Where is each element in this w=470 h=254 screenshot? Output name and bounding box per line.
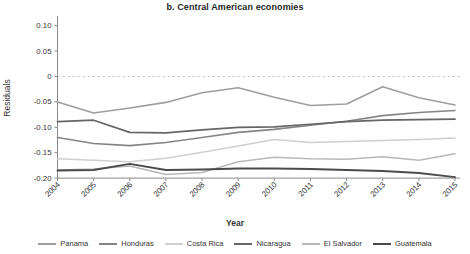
legend-swatch-guatemala	[373, 243, 391, 245]
y-tick-label: -0.10	[34, 123, 52, 132]
legend-label-guatemala: Guatemala	[395, 239, 432, 248]
legend-item-nicaragua: Nicaragua	[234, 239, 290, 248]
legend: PanamaHondurasCosta RicaNicaraguaEl Salv…	[0, 239, 470, 248]
legend-item-honduras: Honduras	[99, 239, 154, 248]
x-tick-label: 2009	[224, 180, 243, 199]
legend-label-panama: Panama	[60, 239, 88, 248]
y-tick-label: -0.05	[34, 97, 52, 106]
legend-label-el-salvador: El Salvador	[324, 239, 362, 248]
x-tick-label: 2005	[79, 180, 98, 199]
legend-item-guatemala: Guatemala	[373, 239, 432, 248]
legend-swatch-costa-rica	[165, 243, 183, 245]
legend-swatch-honduras	[99, 243, 117, 245]
x-tick-label: 2014	[405, 180, 424, 199]
legend-item-panama: Panama	[38, 239, 88, 248]
legend-label-honduras: Honduras	[121, 239, 154, 248]
x-tick-label: 2011	[297, 180, 315, 198]
x-axis-label: Year	[0, 218, 470, 228]
legend-item-costa-rica: Costa Rica	[165, 239, 224, 248]
legend-swatch-panama	[38, 243, 56, 245]
y-tick-label: 0.05	[36, 47, 52, 56]
plot-area: 0.100.050-0.05-0.10-0.15-0.2020042005200…	[0, 0, 470, 254]
y-tick-label: -0.15	[34, 148, 52, 157]
chart-panel: b. Central American economies Residuals …	[0, 0, 470, 254]
legend-item-el-salvador: El Salvador	[302, 239, 362, 248]
legend-swatch-nicaragua	[234, 243, 252, 245]
x-tick-label: 2012	[332, 180, 351, 199]
series-line-guatemala	[58, 164, 456, 177]
y-tick-label: -0.20	[34, 174, 52, 183]
legend-label-costa-rica: Costa Rica	[187, 239, 224, 248]
x-tick-label: 2006	[116, 180, 135, 199]
x-tick-label: 2010	[260, 180, 279, 199]
x-tick-label: 2007	[152, 180, 171, 199]
series-line-panama	[58, 87, 456, 113]
legend-label-nicaragua: Nicaragua	[256, 239, 290, 248]
y-tick-label: 0.10	[36, 21, 52, 30]
x-tick-label: 2008	[188, 180, 207, 199]
x-tick-label: 2015	[441, 180, 460, 199]
legend-swatch-el-salvador	[302, 243, 320, 245]
x-tick-label: 2013	[369, 180, 388, 199]
y-tick-label: 0	[47, 72, 52, 81]
